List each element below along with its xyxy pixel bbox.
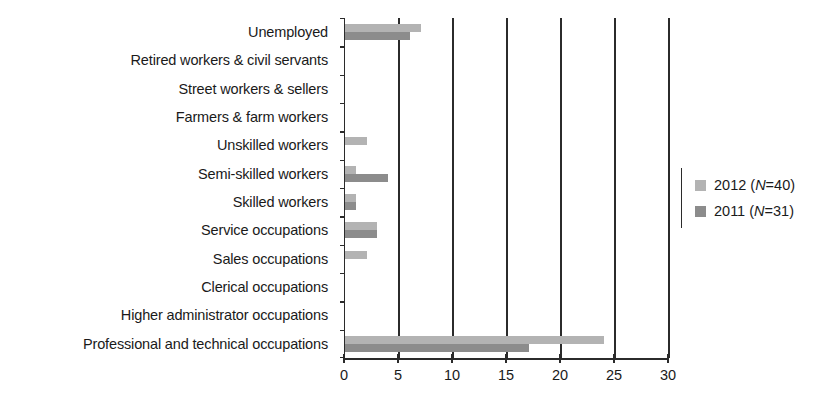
bar-2012	[345, 194, 356, 202]
chart-legend: 2012 (N=40)2011 (N=31)	[681, 168, 835, 228]
bar-row	[345, 301, 669, 329]
bar-row	[345, 216, 669, 244]
bar-2012	[345, 24, 421, 32]
plot-area	[344, 18, 669, 358]
legend-swatch	[695, 180, 706, 191]
x-axis-tick-label: 25	[606, 368, 622, 383]
bar-2012	[345, 222, 377, 230]
bar-2012	[345, 166, 356, 174]
category-label: Clerical occupations	[0, 273, 336, 301]
category-label: Semi-skilled workers	[0, 160, 336, 188]
category-tick	[340, 245, 345, 246]
category-tick	[340, 18, 345, 19]
x-axis-tick-label: 15	[498, 368, 514, 383]
legend-entry: 2012 (N=40)	[695, 172, 835, 198]
category-label: Unskilled workers	[0, 131, 336, 159]
category-label: Farmers & farm workers	[0, 103, 336, 131]
x-axis-tick-label: 0	[340, 368, 348, 383]
bar-row	[345, 103, 669, 131]
category-tick	[340, 131, 345, 132]
category-tick	[340, 46, 345, 47]
category-tick	[340, 188, 345, 189]
bar-rows	[345, 18, 669, 358]
category-axis: UnemployedRetired workers & civil servan…	[0, 18, 336, 358]
bar-2011	[345, 174, 388, 182]
value-axis: 051015202530	[344, 358, 668, 398]
category-tick	[340, 357, 345, 358]
bar-2012	[345, 336, 604, 344]
category-tick	[340, 75, 345, 76]
x-axis-tick-label: 20	[552, 368, 568, 383]
legend-swatch	[695, 206, 706, 217]
legend-label: 2011 (N=31)	[714, 204, 794, 219]
bar-row	[345, 188, 669, 216]
bar-row	[345, 160, 669, 188]
legend-entry: 2011 (N=31)	[695, 198, 835, 224]
bar-row	[345, 245, 669, 273]
bar-row	[345, 46, 669, 74]
category-label: Street workers & sellers	[0, 75, 336, 103]
bar-row	[345, 131, 669, 159]
bar-row	[345, 75, 669, 103]
category-tick	[340, 301, 345, 302]
category-label: Skilled workers	[0, 188, 336, 216]
x-axis-tick-label: 5	[394, 368, 402, 383]
category-tick	[340, 103, 345, 104]
legend-label: 2012 (N=40)	[714, 178, 795, 193]
category-label: Unemployed	[0, 18, 336, 46]
bar-chart: UnemployedRetired workers & civil servan…	[0, 0, 835, 418]
category-label: Sales occupations	[0, 245, 336, 273]
category-label: Service occupations	[0, 216, 336, 244]
bar-2011	[345, 32, 410, 40]
category-label: Higher administrator occupations	[0, 301, 336, 329]
x-axis-tick-label: 30	[660, 368, 676, 383]
category-label: Professional and technical occupations	[0, 330, 336, 358]
bar-2011	[345, 344, 529, 352]
category-tick	[340, 216, 345, 217]
category-tick	[340, 160, 345, 161]
x-axis-tick-label: 10	[444, 368, 460, 383]
category-tick	[340, 330, 345, 331]
bar-row	[345, 330, 669, 358]
category-tick	[340, 273, 345, 274]
bar-2011	[345, 202, 356, 210]
bar-row	[345, 18, 669, 46]
bar-2012	[345, 251, 367, 259]
bar-row	[345, 273, 669, 301]
category-label: Retired workers & civil servants	[0, 46, 336, 74]
bar-2011	[345, 230, 377, 238]
bar-2012	[345, 137, 367, 145]
